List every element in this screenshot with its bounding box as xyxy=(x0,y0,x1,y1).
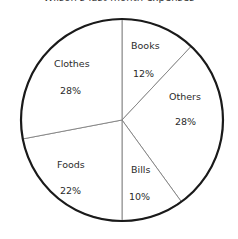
slice-label-books: Books xyxy=(131,41,160,52)
slice-label-others: Others xyxy=(169,92,201,103)
pie-chart-svg xyxy=(0,0,238,239)
slice-label-bills: Bills xyxy=(131,165,150,176)
slice-value-books: 12% xyxy=(133,69,154,80)
slice-label-foods: Foods xyxy=(57,160,85,171)
slice-value-bills: 10% xyxy=(129,192,150,203)
slice-value-others: 28% xyxy=(175,117,196,128)
pie-slice-clothes xyxy=(21,19,122,139)
slice-value-clothes: 28% xyxy=(60,86,81,97)
slice-value-foods: 22% xyxy=(60,186,81,197)
pie-chart-figure: Wilson's last month expenses Books12%Oth… xyxy=(0,0,238,239)
slice-label-clothes: Clothes xyxy=(54,59,90,70)
